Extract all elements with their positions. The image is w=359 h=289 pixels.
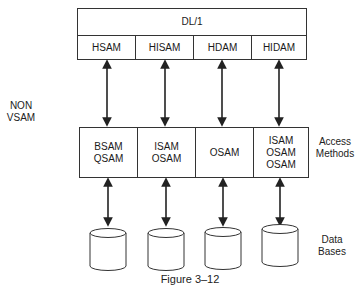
database-icon [90, 229, 126, 271]
database-cylinders [0, 0, 359, 289]
database-icon [262, 225, 298, 267]
database-icon [148, 229, 184, 271]
database-icon [205, 228, 241, 270]
figure-caption: Figure 3–12 [150, 273, 230, 285]
data-bases-label: Data Bases [312, 234, 352, 258]
